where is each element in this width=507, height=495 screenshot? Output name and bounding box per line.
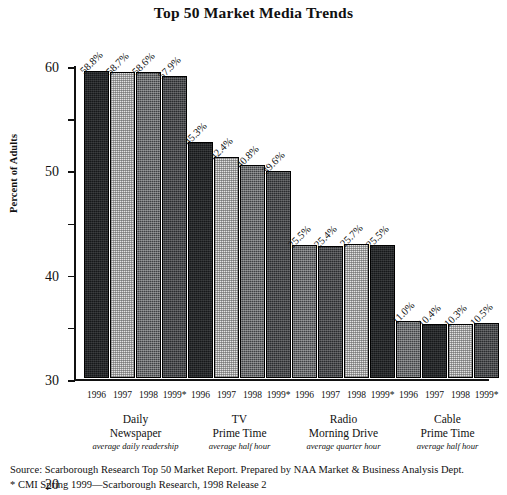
- group-caption-subtitle: average half hour: [374, 440, 507, 452]
- group-caption-line2: Prime Time: [374, 427, 507, 441]
- x-axis-year-label: 1998: [134, 390, 163, 400]
- bar: [292, 245, 317, 378]
- y-axis-tick-label: 40: [45, 270, 59, 284]
- y-axis-tick-label: 60: [45, 61, 59, 75]
- x-axis-year-label: 1998: [342, 390, 371, 400]
- bar: [110, 72, 135, 378]
- group-caption-line1: Cable: [374, 413, 507, 427]
- x-axis-year-label: 1997: [420, 390, 449, 400]
- y-axis-tick: 60: [68, 67, 75, 69]
- x-axis-year-label: 1996: [186, 390, 215, 400]
- x-axis-year-label: 1998: [446, 390, 475, 400]
- y-axis-tick: 50: [68, 119, 75, 121]
- bar: [396, 321, 421, 378]
- bar: [214, 157, 239, 378]
- y-axis-tick: 20: [68, 276, 75, 278]
- x-axis-year-label: 1999*: [160, 390, 189, 400]
- bar: [136, 72, 161, 378]
- footer-note-line: * CMI Spring 1999—Scarborough Research, …: [10, 477, 505, 492]
- x-axis-year-label: 1999*: [264, 390, 293, 400]
- page-title: Top 50 Market Media Trends: [0, 4, 507, 22]
- y-axis-tick: 40: [68, 171, 75, 173]
- plot-area: 0102030405060 58.8%58.7%58.6%57.9%45.3%4…: [74, 66, 489, 380]
- y-axis-tick-label: 50: [45, 165, 59, 179]
- y-axis-tick: 30: [68, 224, 75, 226]
- bar: [240, 165, 265, 378]
- bar: [266, 171, 291, 378]
- bar: [162, 76, 187, 378]
- bar: [370, 245, 395, 378]
- y-axis-tick-label: 30: [45, 374, 59, 388]
- bar: [448, 324, 473, 378]
- y-axis-tick: 10: [68, 328, 75, 330]
- bar: [422, 324, 447, 378]
- footer: Source: Scarborough Research Top 50 Mark…: [10, 462, 505, 492]
- x-axis-year-label: 1997: [108, 390, 137, 400]
- bar: [188, 142, 213, 378]
- x-axis-line: [74, 379, 489, 381]
- x-axis-year-label: 1999*: [368, 390, 397, 400]
- y-axis-title: Percent of Adults: [8, 93, 19, 213]
- bar: [344, 244, 369, 378]
- bar: [474, 323, 499, 378]
- x-axis-year-label: 1996: [290, 390, 319, 400]
- x-axis-year-label: 1999*: [472, 390, 501, 400]
- bar: [318, 246, 343, 379]
- group-caption: CablePrime Timeaverage half hour: [374, 413, 507, 452]
- x-axis-year-label: 1996: [394, 390, 423, 400]
- footer-source-line: Source: Scarborough Research Top 50 Mark…: [10, 462, 505, 477]
- x-axis-year-label: 1997: [212, 390, 241, 400]
- y-axis-tick: 0: [68, 380, 75, 382]
- x-axis-year-label: 1996: [82, 390, 111, 400]
- x-axis-year-label: 1998: [238, 390, 267, 400]
- x-axis-year-label: 1997: [316, 390, 345, 400]
- bar: [84, 71, 109, 378]
